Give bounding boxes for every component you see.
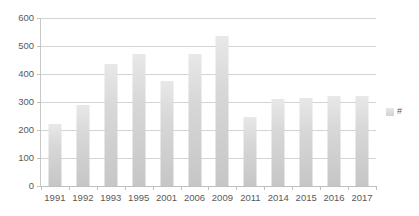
bar-2014[interactable] bbox=[272, 99, 285, 186]
bar-slot bbox=[292, 18, 320, 186]
bar-2009[interactable] bbox=[216, 36, 229, 186]
chart-legend: # bbox=[386, 107, 402, 116]
bar-1995[interactable] bbox=[132, 54, 145, 186]
bar-slot bbox=[264, 18, 292, 186]
bar-2015[interactable] bbox=[300, 98, 313, 186]
bar-2011[interactable] bbox=[244, 117, 257, 186]
y-axis-label: 400 bbox=[0, 69, 34, 79]
x-axis-label-1993: 1993 bbox=[100, 192, 121, 204]
y-axis-label: 100 bbox=[0, 153, 34, 163]
x-axis-tick bbox=[181, 186, 182, 190]
y-axis-label: 300 bbox=[0, 97, 34, 107]
y-axis-label: 500 bbox=[0, 41, 34, 51]
bar-series bbox=[41, 18, 376, 186]
y-axis-label: 200 bbox=[0, 125, 34, 135]
x-axis-label-2017: 2017 bbox=[351, 192, 372, 204]
x-axis-label-1992: 1992 bbox=[72, 192, 93, 204]
y-axis-labels: 600 500 400 300 200 100 0 bbox=[0, 0, 34, 216]
x-axis-label-1995: 1995 bbox=[128, 192, 149, 204]
bar-slot bbox=[125, 18, 153, 186]
x-axis-tick bbox=[236, 186, 237, 190]
x-axis-labels: 1991 1992 1993 1995 2001 2006 2009 2011 … bbox=[41, 192, 376, 208]
bar-slot bbox=[209, 18, 237, 186]
bar-2017[interactable] bbox=[356, 96, 369, 186]
bar-slot bbox=[320, 18, 348, 186]
bar-slot bbox=[348, 18, 376, 186]
x-axis-tick bbox=[41, 186, 42, 190]
bar-slot bbox=[97, 18, 125, 186]
bar-1993[interactable] bbox=[104, 64, 117, 186]
y-axis-label: 600 bbox=[0, 13, 34, 23]
x-axis-label-1991: 1991 bbox=[44, 192, 65, 204]
x-axis-tick bbox=[97, 186, 98, 190]
bar-2001[interactable] bbox=[160, 81, 173, 186]
bar-1991[interactable] bbox=[48, 124, 61, 186]
x-axis-tick bbox=[292, 186, 293, 190]
x-axis-label-2009: 2009 bbox=[212, 192, 233, 204]
bar-slot bbox=[41, 18, 69, 186]
bar-1992[interactable] bbox=[76, 105, 89, 186]
legend-swatch-icon bbox=[386, 108, 394, 116]
bar-slot bbox=[153, 18, 181, 186]
x-axis-label-2001: 2001 bbox=[156, 192, 177, 204]
y-axis-label: 0 bbox=[0, 181, 34, 191]
bar-slot bbox=[69, 18, 97, 186]
x-axis-label-2011: 2011 bbox=[240, 192, 260, 204]
x-axis-tick bbox=[376, 186, 377, 190]
x-axis-tick bbox=[153, 186, 154, 190]
x-axis-label-2014: 2014 bbox=[268, 192, 289, 204]
legend-entry-label: # bbox=[397, 107, 402, 116]
bar-slot bbox=[236, 18, 264, 186]
x-axis-tick bbox=[69, 186, 70, 190]
x-axis-label-2015: 2015 bbox=[296, 192, 317, 204]
x-axis-label-2006: 2006 bbox=[184, 192, 205, 204]
x-axis-tick bbox=[208, 186, 209, 190]
x-axis-label-2016: 2016 bbox=[324, 192, 345, 204]
x-axis-tick bbox=[348, 186, 349, 190]
x-axis-tick bbox=[125, 186, 126, 190]
bar-chart: 600 500 400 300 200 100 0 1991 bbox=[0, 0, 419, 216]
x-axis-tick bbox=[320, 186, 321, 190]
bar-slot bbox=[181, 18, 209, 186]
bar-2006[interactable] bbox=[188, 54, 201, 186]
bar-2016[interactable] bbox=[328, 96, 341, 186]
x-axis-tick bbox=[264, 186, 265, 190]
